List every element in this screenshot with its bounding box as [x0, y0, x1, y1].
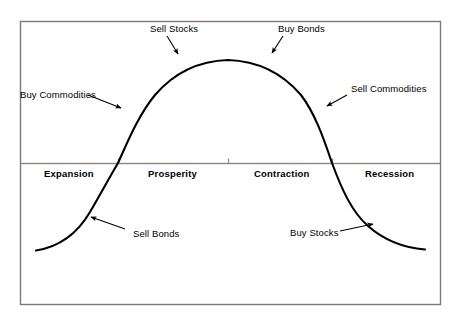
annotation-sell-stocks: Sell Stocks — [150, 24, 198, 34]
phase-label-recession: Recession — [365, 169, 414, 179]
phase-label-expansion: Expansion — [44, 169, 94, 179]
annotation-buy-stocks: Buy Stocks — [290, 228, 339, 238]
business-cycle-diagram: Expansion Prosperity Contraction Recessi… — [0, 0, 461, 319]
annotation-buy-commodities: Buy Commodities — [20, 90, 96, 100]
phase-label-prosperity: Prosperity — [148, 169, 197, 179]
diagram-canvas — [0, 0, 461, 319]
annotation-sell-commodities: Sell Commodities — [351, 84, 427, 94]
phase-label-contraction: Contraction — [254, 169, 310, 179]
annotation-sell-bonds: Sell Bonds — [133, 229, 179, 239]
annotation-buy-bonds: Buy Bonds — [278, 24, 325, 34]
